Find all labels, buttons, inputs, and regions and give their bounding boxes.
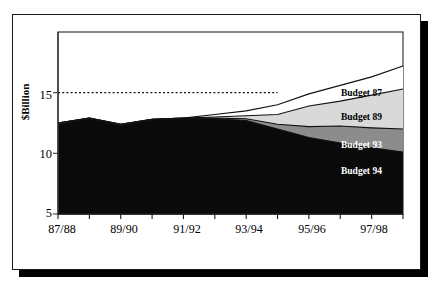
x-tick-label-8788: 87/88: [32, 222, 92, 237]
y-tick-label-10: 10: [26, 147, 52, 162]
x-tick-label-9192: 91/92: [157, 222, 217, 237]
y-tick-label-15: 15: [26, 88, 52, 103]
x-tick-label-9596: 95/96: [282, 222, 342, 237]
area-chart: $Billion 15 10 5 87/88 89/90 91/92 93/94…: [0, 0, 436, 285]
x-tick-label-8990: 89/90: [94, 222, 154, 237]
series-label-budget-93: Budget 93: [341, 140, 382, 150]
x-tick-label-9394: 93/94: [219, 222, 279, 237]
y-tick-label-5: 5: [26, 206, 52, 221]
series-label-budget-87: Budget 87: [341, 88, 382, 98]
x-tick-label-9798: 97/98: [344, 222, 404, 237]
series-label-budget-94: Budget 94: [341, 166, 382, 176]
series-label-budget-89: Budget 89: [341, 112, 382, 122]
